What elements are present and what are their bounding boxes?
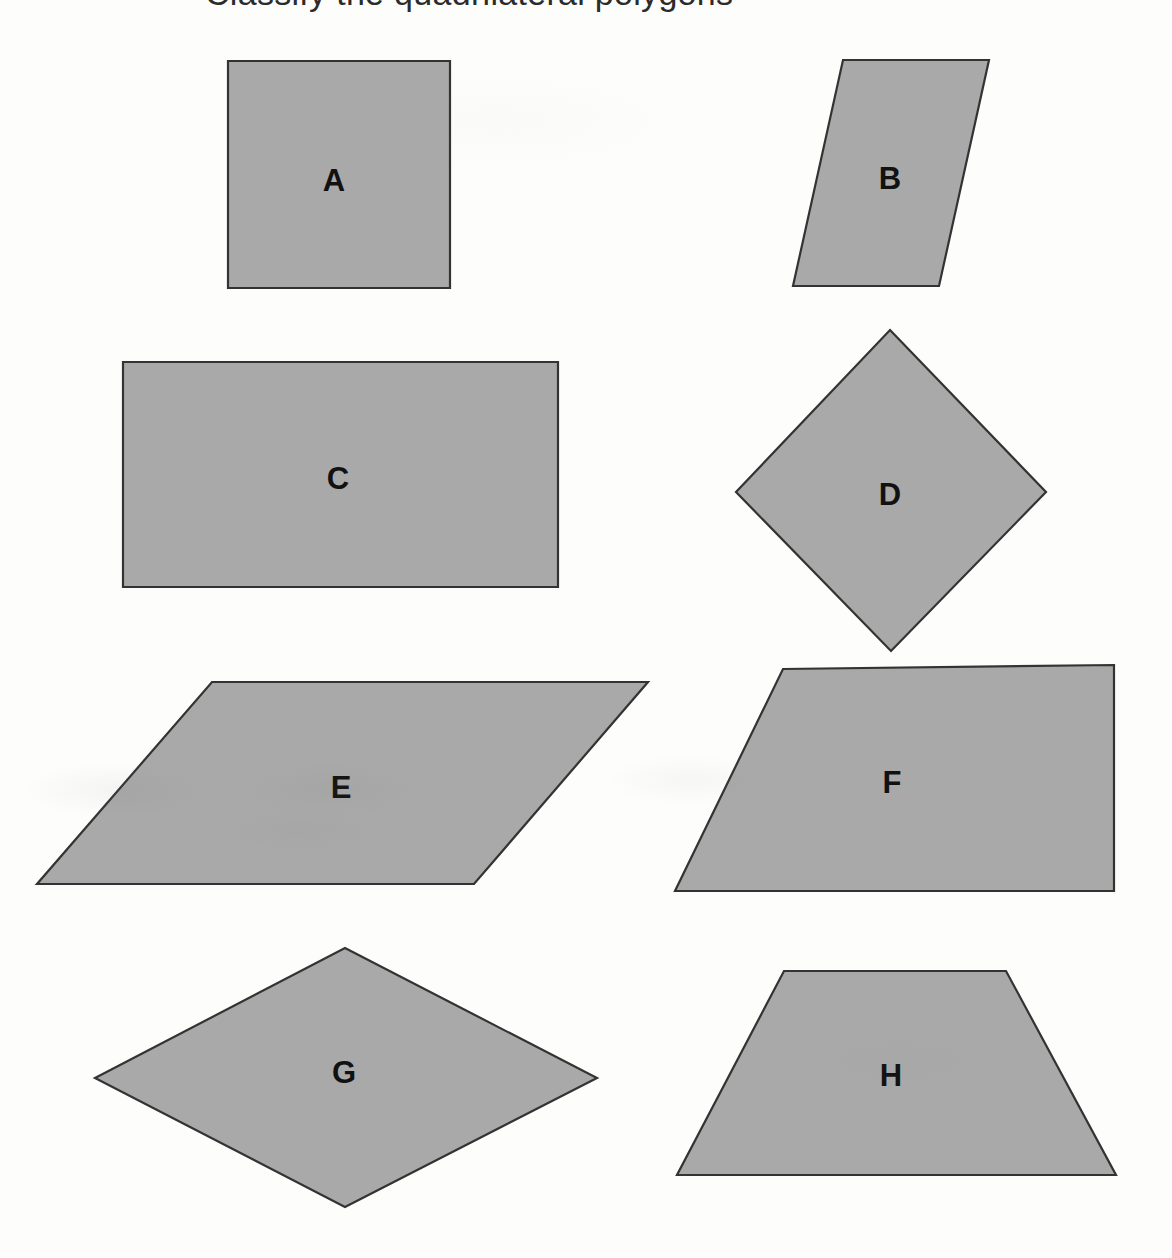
shapes-layer: A B C D E F G H <box>0 0 1172 1258</box>
shape-label-d: D <box>879 479 901 510</box>
page-heading-cropped: Classify the quadrilateral polygons <box>0 0 1172 16</box>
shape-label-c: C <box>327 463 349 494</box>
shape-label-f: F <box>883 767 902 798</box>
worksheet-page: Classify the quadrilateral polygons A B … <box>0 0 1172 1258</box>
shape-label-b: B <box>879 163 901 194</box>
page-heading-text: Classify the quadrilateral polygons <box>205 0 733 13</box>
shape-label-e: E <box>331 772 352 803</box>
shapes-canvas <box>0 0 1172 1258</box>
shape-label-g: G <box>332 1057 356 1088</box>
shape-label-h: H <box>880 1060 902 1091</box>
shape-label-a: A <box>323 165 345 196</box>
